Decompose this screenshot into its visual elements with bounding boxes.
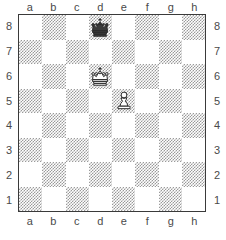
chessboard[interactable] — [18, 14, 206, 212]
square-a7[interactable] — [19, 40, 42, 65]
square-c1[interactable] — [66, 187, 89, 212]
square-g1[interactable] — [159, 187, 182, 212]
file-label-g-bottom: g — [159, 213, 183, 229]
file-label-b-top: b — [42, 0, 66, 14]
rank-label-3-left: 3 — [1, 138, 17, 163]
rank-label-6-left: 6 — [1, 64, 17, 89]
square-f6[interactable] — [135, 64, 158, 89]
square-c7[interactable] — [66, 40, 89, 65]
square-d5[interactable] — [89, 89, 112, 114]
square-f7[interactable] — [135, 40, 158, 65]
square-e8[interactable] — [112, 15, 135, 40]
square-h8[interactable] — [182, 15, 205, 40]
rank-labels-left: 87654321 — [1, 14, 17, 212]
square-g4[interactable] — [159, 113, 182, 138]
rank-label-7-left: 7 — [1, 39, 17, 64]
square-g2[interactable] — [159, 162, 182, 187]
square-e6[interactable] — [112, 64, 135, 89]
white-king[interactable] — [89, 64, 112, 89]
square-d2[interactable] — [89, 162, 112, 187]
square-a4[interactable] — [19, 113, 42, 138]
square-h4[interactable] — [182, 113, 205, 138]
rank-label-8-left: 8 — [1, 14, 17, 39]
file-label-c-top: c — [65, 0, 89, 14]
square-d3[interactable] — [89, 138, 112, 163]
square-a2[interactable] — [19, 162, 42, 187]
file-label-f-bottom: f — [136, 213, 160, 229]
square-d6[interactable] — [89, 64, 112, 89]
square-b7[interactable] — [42, 40, 65, 65]
rank-label-4-left: 4 — [1, 113, 17, 138]
square-f5[interactable] — [135, 89, 158, 114]
file-label-g-top: g — [159, 0, 183, 14]
rank-labels-right: 87654321 — [209, 14, 225, 212]
square-f2[interactable] — [135, 162, 158, 187]
square-b4[interactable] — [42, 113, 65, 138]
square-a5[interactable] — [19, 89, 42, 114]
square-h5[interactable] — [182, 89, 205, 114]
square-d8[interactable] — [89, 15, 112, 40]
square-b8[interactable] — [42, 15, 65, 40]
square-b2[interactable] — [42, 162, 65, 187]
square-d4[interactable] — [89, 113, 112, 138]
square-g7[interactable] — [159, 40, 182, 65]
square-c5[interactable] — [66, 89, 89, 114]
square-a1[interactable] — [19, 187, 42, 212]
square-h1[interactable] — [182, 187, 205, 212]
square-h6[interactable] — [182, 64, 205, 89]
square-g3[interactable] — [159, 138, 182, 163]
square-b1[interactable] — [42, 187, 65, 212]
square-g8[interactable] — [159, 15, 182, 40]
square-h2[interactable] — [182, 162, 205, 187]
square-e4[interactable] — [112, 113, 135, 138]
white-pawn[interactable] — [112, 89, 135, 114]
square-a3[interactable] — [19, 138, 42, 163]
file-label-d-bottom: d — [89, 213, 113, 229]
square-b6[interactable] — [42, 64, 65, 89]
square-c2[interactable] — [66, 162, 89, 187]
file-label-f-top: f — [136, 0, 160, 14]
rank-label-3-right: 3 — [209, 138, 225, 163]
file-labels-top: abcdefgh — [18, 0, 206, 14]
rank-label-8-right: 8 — [209, 14, 225, 39]
square-c3[interactable] — [66, 138, 89, 163]
square-b5[interactable] — [42, 89, 65, 114]
square-d7[interactable] — [89, 40, 112, 65]
chess-diagram: abcdefgh 87654321 — [0, 0, 226, 240]
square-f8[interactable] — [135, 15, 158, 40]
file-label-a-top: a — [18, 0, 42, 14]
black-king[interactable] — [89, 15, 112, 40]
square-h3[interactable] — [182, 138, 205, 163]
file-label-c-bottom: c — [65, 213, 89, 229]
rank-label-2-right: 2 — [209, 163, 225, 188]
rank-label-6-right: 6 — [209, 64, 225, 89]
file-label-h-top: h — [183, 0, 207, 14]
rank-label-4-right: 4 — [209, 113, 225, 138]
square-c8[interactable] — [66, 15, 89, 40]
square-f4[interactable] — [135, 113, 158, 138]
square-a8[interactable] — [19, 15, 42, 40]
square-f1[interactable] — [135, 187, 158, 212]
rank-label-1-right: 1 — [209, 187, 225, 212]
square-g5[interactable] — [159, 89, 182, 114]
file-label-e-top: e — [112, 0, 136, 14]
square-e7[interactable] — [112, 40, 135, 65]
rank-label-2-left: 2 — [1, 163, 17, 188]
file-label-a-bottom: a — [18, 213, 42, 229]
square-e2[interactable] — [112, 162, 135, 187]
square-c4[interactable] — [66, 113, 89, 138]
square-b3[interactable] — [42, 138, 65, 163]
file-label-b-bottom: b — [42, 213, 66, 229]
file-label-h-bottom: h — [183, 213, 207, 229]
square-e1[interactable] — [112, 187, 135, 212]
square-g6[interactable] — [159, 64, 182, 89]
rank-label-1-left: 1 — [1, 187, 17, 212]
square-a6[interactable] — [19, 64, 42, 89]
square-d1[interactable] — [89, 187, 112, 212]
square-e3[interactable] — [112, 138, 135, 163]
square-e5[interactable] — [112, 89, 135, 114]
square-h7[interactable] — [182, 40, 205, 65]
rank-label-5-right: 5 — [209, 88, 225, 113]
square-f3[interactable] — [135, 138, 158, 163]
square-c6[interactable] — [66, 64, 89, 89]
